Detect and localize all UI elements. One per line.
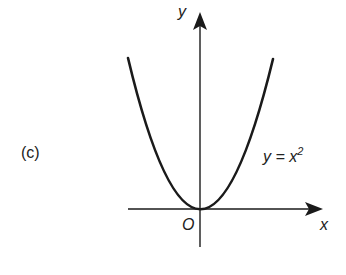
y-axis-label: y <box>178 4 186 20</box>
origin-label: O <box>182 217 194 233</box>
curve-label-base: y = x <box>263 148 297 165</box>
curve-label: y = x2 <box>263 146 303 165</box>
plot-area <box>0 0 346 275</box>
x-axis-label: x <box>320 217 328 233</box>
panel-label: (c) <box>21 145 40 161</box>
curve-label-exponent: 2 <box>297 145 303 157</box>
